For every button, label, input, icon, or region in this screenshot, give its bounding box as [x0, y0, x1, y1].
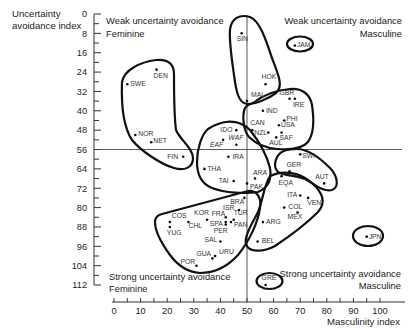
point-marker [235, 143, 238, 146]
point-label: PAK [250, 183, 264, 190]
point-label: IRE [293, 101, 305, 108]
point-marker [262, 110, 265, 113]
point-marker [246, 100, 249, 103]
x-tick-label: 20 [162, 306, 172, 316]
data-point-ven: VEN [307, 197, 321, 206]
point-label: MAL [251, 91, 265, 98]
x-tick-label: 50 [242, 306, 252, 316]
y-tick-label: 16 [77, 48, 87, 58]
point-label: COS [172, 212, 187, 219]
data-point-swi: SWI [299, 152, 315, 159]
point-label: IND [266, 107, 278, 114]
data-point-pak: PAK [246, 182, 264, 190]
x-tick-label: 90 [348, 306, 358, 316]
data-point-uru: URU [214, 248, 234, 257]
point-label: COL [288, 203, 302, 210]
data-point-nzl: NZL [254, 129, 269, 136]
point-marker [182, 155, 185, 158]
scatter-chart: Uncertainty avoidance index 081624324048… [0, 0, 412, 330]
point-marker [224, 221, 227, 224]
data-point-cos: COS [169, 212, 187, 223]
point-label: NOR [138, 130, 153, 137]
point-marker [323, 182, 326, 185]
point-label: GUA [196, 250, 211, 257]
data-point-ara: ARA [252, 169, 267, 180]
point-label: GRE [262, 274, 277, 281]
y-tick-label: 0 [82, 9, 87, 19]
y-axis-title-line1: Uncertainty [12, 8, 61, 19]
data-point-chl: CHL [187, 221, 202, 229]
y-tick-label: 40 [77, 106, 87, 116]
point-marker [288, 97, 291, 100]
y-tick-label: 64 [77, 164, 87, 174]
point-label: GER [287, 161, 302, 168]
data-point-arg: ARG [262, 218, 281, 225]
cluster-outlines [122, 16, 383, 289]
quadrant-top-left-line1: Weak uncertainty avoidance [106, 15, 224, 26]
point-marker [211, 257, 214, 260]
point-marker [264, 83, 267, 86]
x-tick-label: 10 [135, 306, 145, 316]
point-label: EQA [279, 179, 294, 187]
point-marker [256, 240, 259, 243]
point-label: KOR [194, 209, 209, 216]
x-tick-label: 60 [268, 306, 278, 316]
data-point-yug: YUG [167, 226, 182, 236]
point-label: GBR [280, 89, 295, 96]
data-point-eaf: EAF [210, 139, 224, 148]
data-point-bel: BEL [256, 237, 274, 244]
point-marker [365, 235, 368, 238]
data-point-ire: IRE [293, 97, 305, 107]
data-point-nor: NOR [134, 130, 153, 137]
point-marker [251, 129, 254, 132]
y-tick-label: 112 [72, 280, 87, 290]
point-marker [288, 170, 291, 173]
point-marker [267, 131, 270, 134]
y-tick-label: 32 [77, 87, 87, 97]
point-label: IDO [220, 126, 232, 133]
point-marker [134, 134, 137, 137]
point-marker [214, 255, 217, 258]
y-tick-label: 8 [82, 29, 87, 39]
point-label: PER [214, 227, 228, 234]
data-point-gbr: GBR [280, 89, 295, 100]
y-tick-label: 88 [77, 222, 87, 232]
point-marker [240, 32, 243, 35]
point-label: FRA [212, 210, 226, 217]
data-point-ind: IND [262, 107, 278, 114]
point-label: SAL [204, 236, 217, 243]
quadrant-top-right-line2: Masculine [360, 28, 402, 39]
quadrant-top-right-line1: Weak uncertainty avoidance [284, 15, 402, 26]
point-marker [299, 153, 302, 156]
data-point-mex: MEX [288, 211, 303, 220]
x-tick-label: 30 [189, 306, 199, 316]
data-point-waf: WAF [228, 134, 244, 146]
point-label: ARG [266, 218, 281, 225]
point-label: HOK [262, 73, 277, 80]
point-label: PAN [234, 221, 248, 228]
data-point-tha: THA [203, 165, 221, 172]
data-point-den: DEN [154, 68, 168, 78]
y-tick-label: 48 [77, 125, 87, 135]
point-marker [262, 221, 265, 224]
x-tick-label: 0 [111, 306, 116, 316]
point-marker [280, 175, 283, 178]
point-marker [227, 155, 230, 158]
quadrant-bottom-right-line2: Masculine [359, 280, 401, 291]
y-tick-label: 104 [72, 261, 87, 271]
data-point-sin: SIN [237, 32, 248, 42]
point-label: AUL [269, 139, 282, 146]
point-marker [283, 206, 286, 209]
point-marker [206, 218, 209, 221]
point-label: CAN [250, 119, 264, 126]
y-axis-title-line2: avoidance index [12, 20, 82, 31]
point-marker [264, 284, 267, 287]
data-point-hok: HOK [262, 73, 277, 85]
data-point-tur: TUR [232, 209, 247, 221]
data-point-ger: GER [287, 161, 302, 172]
point-label: NET [153, 137, 167, 144]
data-point-gre: GRE [262, 274, 277, 286]
point-label: JPN [369, 233, 382, 240]
data-point-sal: SAL [204, 236, 221, 243]
quadrant-bottom-left-line2: Feminine [109, 283, 148, 294]
